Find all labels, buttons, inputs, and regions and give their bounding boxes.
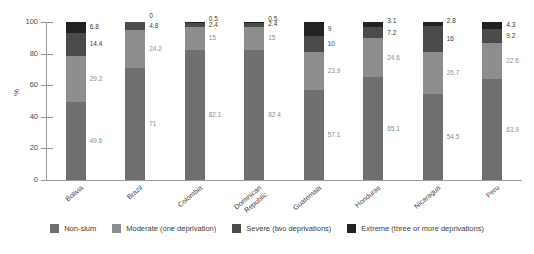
bar-segment-value-label: 6.8 (90, 24, 99, 31)
bar-group[interactable]: 7124.24.80 (125, 22, 145, 180)
y-axis-title: % (12, 89, 21, 96)
stacked-bar[interactable] (244, 22, 264, 180)
y-tick-label: 0 (34, 176, 38, 184)
bar-segment[interactable] (363, 77, 383, 180)
bar-segment-value-label: 49.6 (90, 138, 103, 145)
legend-item[interactable]: Non-slum (50, 224, 96, 233)
bar-segment[interactable] (304, 22, 324, 36)
stacked-bar-chart: % 020406080100 49.629.214.46.87124.24.80… (0, 0, 534, 254)
stacked-bar[interactable] (423, 22, 443, 180)
legend-item[interactable]: Severe (two deprivations) (232, 224, 331, 233)
bar-segment[interactable] (244, 27, 264, 51)
bar-group[interactable]: 54.526.7162.8 (423, 22, 443, 180)
y-tick-mark (41, 180, 46, 181)
legend-label: Non-slum (64, 225, 96, 233)
bar-segment-value-label: 0.5 (209, 16, 218, 23)
bar-segment[interactable] (185, 27, 205, 51)
bar-segment[interactable] (423, 26, 443, 51)
bar-segment-value-label: 54.5 (447, 134, 460, 141)
bar-segment-value-label: 71 (149, 121, 156, 128)
bar-segment[interactable] (244, 50, 264, 180)
bar-segment-value-label: 23.9 (328, 68, 341, 75)
bar-segment-value-label: 9 (328, 26, 332, 33)
legend-item[interactable]: Extreme (three or more deprivations) (347, 224, 484, 233)
bar-segment-value-label: 7.2 (387, 29, 396, 36)
bar-segment-value-label: 3.1 (387, 18, 396, 25)
x-axis-category-label: Peru (452, 184, 502, 228)
bar-segment[interactable] (423, 94, 443, 180)
plot-area: 020406080100 49.629.214.46.87124.24.8082… (46, 22, 522, 180)
bar-segment[interactable] (66, 33, 86, 56)
bar-segment[interactable] (185, 50, 205, 180)
x-axis-line (46, 180, 522, 181)
y-tick-mark-inner (47, 180, 53, 181)
bar-segment-value-label: 22.6 (506, 58, 519, 65)
bar-group[interactable]: 49.629.214.46.8 (66, 22, 86, 180)
bar-group[interactable]: 82.1152.40.5 (185, 22, 205, 180)
bar-segment-value-label: 4.3 (506, 22, 515, 29)
bar-segment[interactable] (482, 79, 502, 180)
bar-segment[interactable] (482, 22, 502, 29)
y-tick-label: 20 (30, 145, 38, 153)
stacked-bar[interactable] (185, 22, 205, 180)
bar-segment-value-label: 0 (149, 13, 153, 20)
legend-swatch-icon (50, 224, 59, 233)
bar-segment-value-label: 29.2 (90, 75, 103, 82)
bar-segment[interactable] (304, 52, 324, 90)
bar-segment-value-label: 24.6 (387, 54, 400, 61)
bar-segment-value-label: 26.7 (447, 70, 460, 77)
stacked-bar[interactable] (125, 22, 145, 180)
bar-segment-value-label: 15 (268, 35, 275, 42)
stacked-bar[interactable] (482, 22, 502, 180)
bar-segment-value-label: 9.2 (506, 33, 515, 40)
bar-segment[interactable] (304, 90, 324, 180)
y-tick-label: 40 (30, 113, 38, 121)
y-tick-label: 100 (25, 18, 38, 26)
bar-segment[interactable] (66, 22, 86, 33)
bar-segment[interactable] (363, 38, 383, 77)
bar-segment-value-label: 15 (209, 35, 216, 42)
stacked-bar[interactable] (304, 22, 324, 180)
bar-group[interactable]: 82.4152.40.5 (244, 22, 264, 180)
bar-segment[interactable] (125, 22, 145, 30)
bar-group[interactable]: 63.922.69.24.3 (482, 22, 502, 180)
bar-segment-value-label: 82.4 (268, 112, 281, 119)
bar-group[interactable]: 65.124.67.23.1 (363, 22, 383, 180)
bar-segment-value-label: 0.5 (268, 16, 277, 23)
bar-segment-value-label: 65.1 (387, 125, 400, 132)
bar-segment[interactable] (66, 56, 86, 102)
bar-segment-value-label: 14.4 (90, 41, 103, 48)
bar-segment[interactable] (482, 43, 502, 79)
x-axis-category-label: Colombia (154, 184, 204, 228)
x-axis-category-label: Guatemala (273, 184, 323, 228)
bar-segment[interactable] (66, 102, 86, 180)
bar-segment[interactable] (125, 30, 145, 68)
bar-segment-value-label: 4.8 (149, 23, 158, 30)
y-tick-label: 80 (30, 50, 38, 58)
bar-group[interactable]: 57.123.9109 (304, 22, 324, 180)
bars-layer: 49.629.214.46.87124.24.8082.1152.40.582.… (46, 22, 522, 180)
bar-segment[interactable] (125, 68, 145, 180)
stacked-bar[interactable] (363, 22, 383, 180)
bar-segment[interactable] (363, 27, 383, 38)
bar-segment-value-label: 16 (447, 36, 454, 43)
x-axis-category-label: Nicaragua (392, 184, 442, 228)
bar-segment-value-label: 10 (328, 41, 335, 48)
bar-segment-value-label: 63.9 (506, 126, 519, 133)
x-axis-category-label: Bolivia (35, 184, 85, 228)
bar-segment[interactable] (482, 29, 502, 44)
legend-swatch-icon (112, 224, 121, 233)
bar-segment[interactable] (304, 36, 324, 52)
legend-swatch-icon (232, 224, 241, 233)
legend-label: Moderate (one deprivation) (126, 225, 216, 233)
bar-segment-value-label: 2.8 (447, 18, 456, 25)
legend-label: Severe (two deprivations) (246, 225, 331, 233)
bar-segment[interactable] (423, 52, 443, 94)
legend-item[interactable]: Moderate (one deprivation) (112, 224, 216, 233)
legend-label: Extreme (three or more deprivations) (361, 225, 484, 233)
bar-segment-value-label: 57.1 (328, 132, 341, 139)
x-axis-category-label: Honduras (333, 184, 383, 228)
stacked-bar[interactable] (66, 22, 86, 180)
y-tick-label: 60 (30, 81, 38, 89)
legend-swatch-icon (347, 224, 356, 233)
